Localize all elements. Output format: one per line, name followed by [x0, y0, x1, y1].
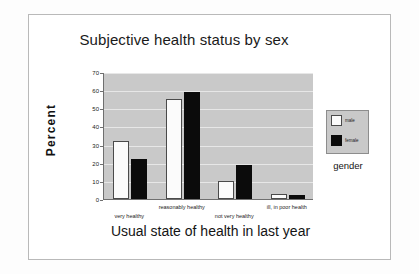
y-tick-label: 40 [92, 124, 99, 130]
x-category-label: very healthy [114, 213, 144, 219]
bar-male [113, 141, 129, 199]
legend-label-male: male [345, 118, 355, 123]
y-tick-label: 50 [92, 106, 99, 112]
chart-screenshot: Subjective health status by sex Percent … [0, 0, 419, 274]
legend-entry-male: male [331, 115, 355, 126]
bar-female [289, 195, 305, 199]
x-axis-title: Usual state of health in last year [29, 223, 392, 239]
x-category-label: ill, in poor health [267, 204, 307, 210]
bar-female [131, 159, 147, 199]
y-tick-mark [100, 109, 103, 110]
y-tick-mark [100, 91, 103, 92]
y-tick-mark [100, 146, 103, 147]
plot-background [103, 73, 313, 200]
y-tick-label: 30 [92, 143, 99, 149]
legend-swatch-male [331, 115, 342, 126]
x-category-label: not very healthy [215, 213, 254, 219]
plot-area: 010203040506070 very healthyreasonably h… [103, 73, 313, 200]
legend-title: gender [320, 160, 376, 171]
y-axis-title: Percent [44, 85, 58, 175]
y-tick-mark [100, 200, 103, 201]
legend-entry-female: female [331, 135, 359, 146]
legend: male female [326, 110, 369, 154]
legend-label-female: female [345, 138, 359, 143]
legend-swatch-female [331, 135, 342, 146]
x-category-label: reasonably healthy [159, 204, 205, 210]
bar-female [184, 92, 200, 199]
y-tick-label: 0 [96, 197, 99, 203]
y-tick-mark [100, 127, 103, 128]
y-tick-mark [100, 164, 103, 165]
y-tick-label: 20 [92, 161, 99, 167]
bar-male [271, 194, 287, 199]
y-tick-label: 70 [92, 70, 99, 76]
y-tick-label: 10 [92, 179, 99, 185]
bar-male [218, 181, 234, 199]
bar-male [166, 99, 182, 199]
chart-title: Subjective health status by sex [29, 31, 339, 48]
bar-female [236, 165, 252, 199]
y-tick-mark [100, 182, 103, 183]
bar-group-container [104, 73, 313, 199]
y-tick-label: 60 [92, 88, 99, 94]
y-tick-mark [100, 73, 103, 74]
chart-card: Subjective health status by sex Percent … [28, 14, 391, 260]
